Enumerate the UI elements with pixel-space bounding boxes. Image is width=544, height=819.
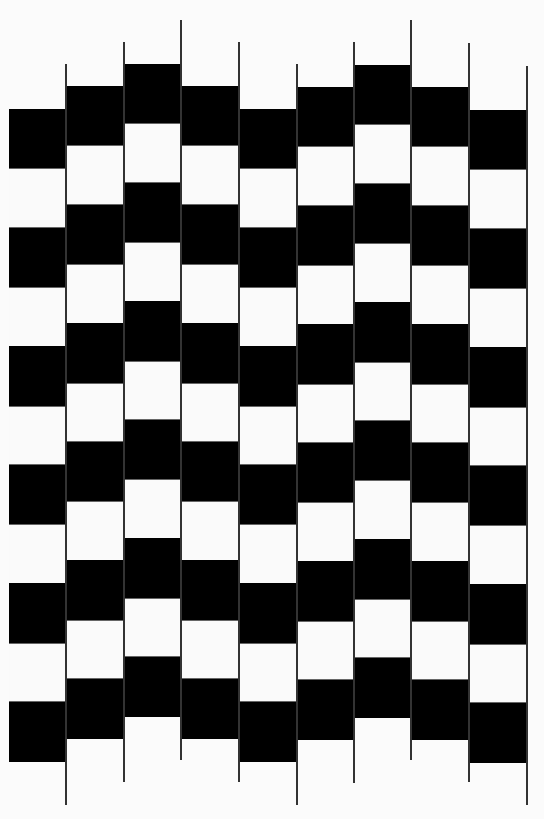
black-tile (297, 443, 355, 503)
column-divider-line (123, 42, 125, 782)
black-tile (239, 465, 297, 525)
column-divider-line (65, 64, 67, 805)
white-tile (67, 620, 125, 680)
black-tile (67, 442, 125, 502)
black-tile (124, 183, 182, 243)
column-divider-line (468, 43, 470, 782)
black-tile (469, 229, 527, 289)
black-tile (354, 302, 412, 362)
black-tile (354, 421, 412, 481)
white-tile (239, 287, 297, 347)
black-tile (9, 228, 67, 288)
black-tile (182, 679, 240, 739)
black-tile (9, 583, 67, 643)
black-tile (124, 538, 182, 598)
white-tile (9, 287, 67, 347)
white-tile (239, 406, 297, 466)
white-tile (182, 620, 240, 680)
white-tile (297, 621, 355, 681)
column-divider-line (353, 42, 355, 783)
white-tile (469, 407, 527, 467)
white-tile (9, 406, 67, 466)
white-tile (354, 124, 412, 184)
white-tile (412, 502, 470, 562)
white-tile (469, 644, 527, 704)
black-tile (9, 465, 67, 525)
black-tile (412, 680, 470, 740)
white-tile (412, 265, 470, 325)
black-tile (469, 110, 527, 170)
column-divider-line (526, 66, 528, 805)
black-tile (297, 324, 355, 384)
white-tile (469, 288, 527, 348)
white-tile (354, 362, 412, 422)
white-tile (9, 643, 67, 703)
white-tile (182, 264, 240, 324)
white-tile (124, 361, 182, 421)
white-tile (67, 383, 125, 443)
white-tile (124, 598, 182, 658)
white-tile (297, 146, 355, 206)
black-tile (67, 679, 125, 739)
black-tile (239, 109, 297, 169)
black-tile (182, 560, 240, 620)
black-tile (124, 420, 182, 480)
white-tile (354, 243, 412, 303)
white-tile (124, 123, 182, 183)
black-tile (67, 86, 125, 146)
black-tile (297, 87, 355, 147)
white-tile (469, 525, 527, 585)
black-tile (9, 702, 67, 762)
black-tile (124, 657, 182, 717)
white-tile (412, 621, 470, 681)
column-divider-line (238, 42, 240, 782)
black-tile (9, 109, 67, 169)
white-tile (239, 524, 297, 584)
white-tile (239, 168, 297, 228)
black-tile (354, 658, 412, 718)
white-tile (9, 168, 67, 228)
black-tile (182, 323, 240, 383)
white-tile (182, 145, 240, 205)
white-tile (239, 643, 297, 703)
black-tile (354, 539, 412, 599)
white-tile (297, 265, 355, 325)
white-tile (412, 384, 470, 444)
black-tile (67, 560, 125, 620)
black-tile (182, 205, 240, 265)
column-divider-line (410, 20, 412, 760)
black-tile (354, 65, 412, 125)
black-tile (239, 702, 297, 762)
black-tile (239, 583, 297, 643)
black-tile (297, 206, 355, 266)
white-tile (412, 146, 470, 206)
column-divider-line (296, 64, 298, 805)
black-tile (469, 466, 527, 526)
black-tile (182, 442, 240, 502)
black-tile (412, 324, 470, 384)
black-tile (182, 86, 240, 146)
black-tile (297, 561, 355, 621)
black-tile (412, 443, 470, 503)
black-tile (67, 323, 125, 383)
black-tile (9, 346, 67, 406)
black-tile (124, 64, 182, 124)
illusion-canvas (0, 0, 544, 819)
white-tile (67, 501, 125, 561)
black-tile (412, 87, 470, 147)
black-tile (239, 228, 297, 288)
white-tile (182, 501, 240, 561)
white-tile (67, 145, 125, 205)
black-tile (469, 703, 527, 763)
column-divider-line (180, 20, 182, 760)
black-tile (297, 680, 355, 740)
white-tile (9, 524, 67, 584)
black-tile (67, 205, 125, 265)
black-tile (412, 561, 470, 621)
white-tile (182, 383, 240, 443)
white-tile (354, 480, 412, 540)
black-tile (124, 301, 182, 361)
white-tile (469, 169, 527, 229)
black-tile (469, 584, 527, 644)
white-tile (297, 384, 355, 444)
